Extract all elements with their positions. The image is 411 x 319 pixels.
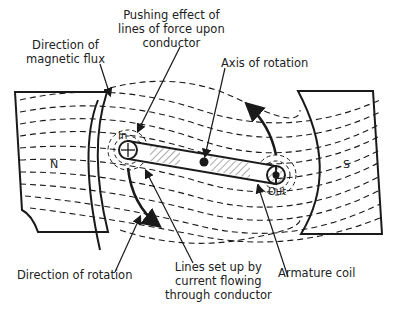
label-line: conductor (118, 36, 225, 50)
label-line: current flowing (165, 274, 272, 288)
pole-label-north: N (50, 158, 58, 171)
conductor-label-out: Out (268, 186, 286, 197)
label-axis: Axis of rotation (221, 56, 308, 70)
label-rotation: Direction of rotation (17, 268, 132, 282)
label-line: lines of force upon (118, 22, 225, 36)
label-line: Direction of (26, 38, 105, 52)
conductor-out (267, 166, 285, 184)
label-line: Lines set up by (165, 260, 272, 274)
pole-label-south: S (343, 158, 350, 171)
label-line: Pushing effect of (118, 8, 225, 22)
conductor-label-in: In (118, 130, 127, 141)
axis-dot (200, 158, 209, 167)
label-pushing-effect: Pushing effect of lines of force upon co… (118, 8, 225, 50)
label-armature: Armature coil (278, 266, 355, 280)
label-lines-set-up: Lines set up by current flowing through … (165, 260, 272, 302)
conductor-in (119, 141, 137, 159)
label-line: magnetic flux (26, 52, 105, 66)
south-pole (298, 91, 382, 234)
label-line: through conductor (165, 288, 272, 302)
label-magnetic-flux: Direction of magnetic flux (26, 38, 105, 66)
